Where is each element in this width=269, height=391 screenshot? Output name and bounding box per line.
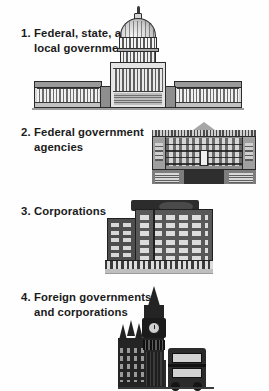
capitol-central-steps — [114, 93, 162, 105]
bus-upper-windows — [172, 353, 202, 363]
big-ben-belfry — [143, 340, 165, 350]
corporate-left-windows — [111, 223, 133, 263]
capitol-left-wing-columns — [37, 88, 99, 103]
capitol-right-wing-columns — [177, 88, 239, 103]
list-item: 3. Corporations — [0, 192, 269, 284]
agency-entrance — [184, 170, 224, 184]
big-ben-spire-icon — [148, 286, 160, 306]
corporate-ground-line — [105, 269, 213, 274]
westminster-windows — [120, 348, 146, 382]
list-item-text: Corporations — [34, 204, 106, 219]
agency-center-window — [200, 150, 208, 166]
capitol-central-facade — [110, 62, 166, 108]
list-item: 1. Federal, state, and local governments — [0, 0, 269, 112]
london-landmarks-illustration — [118, 286, 214, 390]
clock-face-icon — [148, 322, 160, 334]
us-capitol-building-illustration — [34, 28, 242, 108]
corporate-main-windows — [140, 215, 208, 263]
london-ground-line — [118, 387, 214, 389]
capitol-dome-icon — [120, 18, 156, 38]
westminster-pinnacle-icon — [127, 320, 135, 336]
agency-left-steps — [155, 173, 179, 183]
list-item-label: 2. Federal government agencies — [21, 125, 144, 154]
double-decker-bus-icon — [168, 348, 206, 388]
list-item: 4. Foreign governments and corporations — [0, 284, 269, 390]
capitol-left-wing-base — [35, 102, 101, 107]
list-item-number: 4. — [21, 290, 34, 305]
agency-cornice — [152, 130, 256, 137]
capitol-right-wing — [174, 81, 242, 108]
government-agency-building-illustration — [152, 122, 256, 184]
corporate-facade-seam — [153, 210, 155, 267]
list-item-label: 3. Corporations — [21, 204, 106, 219]
list-item: 2. Federal government agencies — [0, 112, 269, 192]
list-item-number: 1. — [21, 26, 34, 41]
capitol-left-wing — [34, 81, 102, 108]
bus-lower-windows — [172, 368, 202, 378]
capitol-statue-of-freedom-icon — [137, 6, 140, 13]
list-item-number: 3. — [21, 204, 34, 219]
list-item-number: 2. — [21, 125, 34, 140]
westminster-pinnacle-icon — [119, 324, 127, 340]
capitol-central-columns — [113, 68, 163, 92]
big-ben-shaft-detail — [146, 352, 162, 386]
agency-right-steps — [229, 173, 253, 183]
capitol-ground-line — [32, 108, 244, 110]
capitol-right-wing-base — [175, 102, 241, 107]
bus-deck-divider — [168, 364, 206, 367]
corporate-office-building-illustration — [107, 200, 213, 276]
list-item-text: Federal government agencies — [34, 125, 144, 154]
